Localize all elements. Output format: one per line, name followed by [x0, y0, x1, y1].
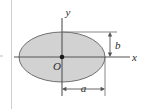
semi-major-axis-label: a: [81, 82, 87, 94]
origin-point: [60, 55, 65, 60]
ellipse-diagram: y x O b a: [0, 0, 154, 109]
figure-container: y x O b a: [0, 0, 154, 109]
x-axis-label: x: [131, 51, 137, 63]
semi-minor-axis-label: b: [115, 39, 121, 51]
y-axis-label: y: [65, 6, 71, 18]
origin-label: O: [53, 60, 61, 72]
